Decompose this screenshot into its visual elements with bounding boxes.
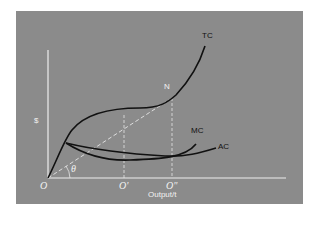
tc-curve — [48, 46, 205, 178]
theta-arc — [66, 166, 70, 178]
o-double-prime-label: O" — [166, 180, 177, 191]
tc-label: TC — [202, 31, 213, 40]
point-n-label: N — [164, 82, 170, 91]
ac-label: AC — [218, 142, 229, 151]
mc-curve — [66, 143, 196, 160]
theta-label: θ — [71, 163, 76, 174]
x-axis-label: Output/t — [148, 190, 176, 199]
mc-label: MC — [191, 126, 203, 135]
o-prime-label: O' — [119, 180, 128, 191]
origin-label: O — [40, 180, 47, 191]
y-axis-label: $ — [34, 116, 38, 125]
